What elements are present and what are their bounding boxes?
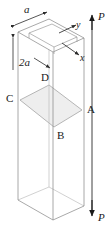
dimension-label-a: a (24, 4, 30, 15)
load-label-top-p: P (98, 11, 105, 22)
dimension-label-2a: 2a (19, 57, 30, 68)
section-vertex-label-d: D (41, 72, 49, 83)
axis-x-arrow (62, 43, 79, 55)
axis-label-x: x (80, 53, 84, 63)
load-label-bottom-p: P (98, 212, 105, 223)
tube-bottom-face (18, 200, 84, 220)
section-vertex-label-c: C (6, 93, 13, 104)
axis-label-y: y (76, 20, 80, 30)
inclined-section-abcd (20, 85, 82, 127)
tube-diagram-svg (0, 0, 111, 232)
section-vertex-label-a: A (87, 104, 95, 115)
figure-container: a 2a y x P P A B C D (0, 0, 111, 232)
section-vertex-label-b: B (57, 130, 64, 141)
